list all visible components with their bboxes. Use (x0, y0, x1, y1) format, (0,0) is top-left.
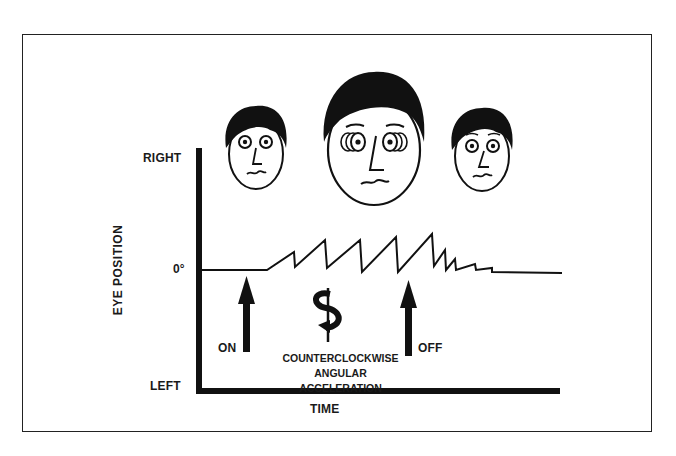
caption-line-1: COUNTERCLOCKWISE (273, 351, 408, 366)
y-axis-label: EYE POSITION (111, 225, 125, 316)
on-arrow-icon (238, 276, 255, 352)
on-label: ON (218, 341, 236, 355)
face-center (324, 72, 425, 205)
off-arrow-icon (400, 280, 417, 356)
x-axis-label: TIME (310, 402, 339, 416)
y-tick-right: RIGHT (143, 151, 181, 165)
y-tick-left: LEFT (150, 379, 181, 393)
y-tick-zero: 0° (173, 262, 185, 276)
eye-position-trace (202, 234, 562, 273)
off-label: OFF (418, 341, 443, 355)
face-right (451, 108, 512, 191)
stimulus-caption: COUNTERCLOCKWISE ANGULAR ACCELERATION (273, 351, 408, 396)
counterclockwise-rotation-icon (316, 288, 339, 342)
caption-line-2: ANGULAR ACCELERATION (273, 366, 408, 396)
face-left (225, 106, 286, 189)
